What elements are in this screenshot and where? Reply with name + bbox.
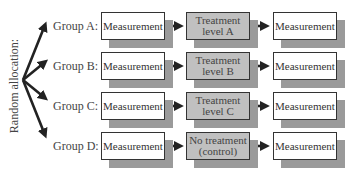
group-a-post-measurement: Measurement bbox=[273, 12, 337, 40]
pre-measurement-box: Measurement bbox=[101, 12, 165, 40]
post-measurement-box: Measurement bbox=[273, 132, 337, 160]
treatment-line-2: (control) bbox=[189, 146, 247, 157]
pre-measurement-box: Measurement bbox=[101, 52, 165, 80]
group-b-label: Group B: bbox=[53, 59, 98, 74]
group-c-pre-measurement: Measurement bbox=[101, 92, 165, 120]
pre-measurement-box: Measurement bbox=[101, 132, 165, 160]
group-a-label: Group A: bbox=[53, 19, 98, 34]
group-b-pre-measurement: Measurement bbox=[101, 52, 165, 80]
control-box: No treatment (control) bbox=[186, 132, 250, 160]
pre-measurement-box: Measurement bbox=[101, 92, 165, 120]
group-b-post-measurement: Measurement bbox=[273, 52, 337, 80]
group-d-label: Group D: bbox=[53, 139, 99, 154]
treatment-box: Treatment level C bbox=[186, 92, 250, 120]
group-a-pre-measurement: Measurement bbox=[101, 12, 165, 40]
group-c-label: Group C: bbox=[53, 99, 98, 114]
group-d-post-measurement: Measurement bbox=[273, 132, 337, 160]
random-allocation-diagram: Random allocation: bbox=[0, 0, 356, 173]
treatment-line-2: level A bbox=[196, 26, 241, 37]
allocation-arrows bbox=[23, 25, 45, 135]
post-measurement-box: Measurement bbox=[273, 12, 337, 40]
group-b-treatment: Treatment level B bbox=[186, 52, 250, 80]
post-measurement-box: Measurement bbox=[273, 52, 337, 80]
treatment-line-2: level C bbox=[196, 106, 241, 117]
group-d-control: No treatment (control) bbox=[186, 132, 250, 160]
treatment-box: Treatment level B bbox=[186, 52, 250, 80]
group-d-pre-measurement: Measurement bbox=[101, 132, 165, 160]
treatment-line-2: level B bbox=[196, 66, 241, 77]
group-a-treatment: Treatment level A bbox=[186, 12, 250, 40]
group-c-treatment: Treatment level C bbox=[186, 92, 250, 120]
treatment-box: Treatment level A bbox=[186, 12, 250, 40]
group-c-post-measurement: Measurement bbox=[273, 92, 337, 120]
post-measurement-box: Measurement bbox=[273, 92, 337, 120]
